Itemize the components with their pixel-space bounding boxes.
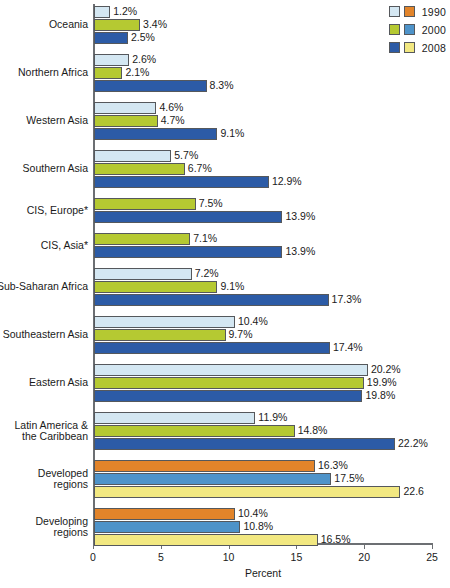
bar-row: 16.3% bbox=[94, 460, 450, 472]
bar-row: 13.9% bbox=[94, 211, 450, 223]
bar-row: 19.8% bbox=[94, 390, 450, 402]
bar bbox=[94, 176, 269, 188]
x-axis-title: Percent bbox=[93, 567, 433, 579]
bar bbox=[94, 294, 329, 306]
x-tick-label: 15 bbox=[291, 551, 303, 563]
bar-row: 10.4% bbox=[94, 316, 450, 328]
bar bbox=[94, 32, 128, 44]
bar-value-label: 7.2% bbox=[192, 267, 219, 280]
bar-group: Oceania1.2%3.4%2.5% bbox=[0, 6, 450, 44]
bar bbox=[94, 54, 129, 66]
bar-value-label: 10.8% bbox=[240, 520, 273, 533]
bar-value-label: 6.7% bbox=[185, 162, 212, 175]
bar-value-label: 13.9% bbox=[282, 210, 315, 223]
x-tick-label: 10 bbox=[223, 551, 235, 563]
bar-row: 6.7% bbox=[94, 163, 450, 175]
bar-value-label: 17.4% bbox=[330, 341, 363, 354]
bar bbox=[94, 128, 217, 140]
bar bbox=[94, 67, 122, 79]
bar bbox=[94, 211, 282, 223]
bar-row: 9.1% bbox=[94, 281, 450, 293]
x-tick-label: 25 bbox=[426, 551, 438, 563]
bar-row: 19.9% bbox=[94, 377, 450, 389]
bar-row: 16.5% bbox=[94, 534, 450, 546]
bar bbox=[94, 80, 207, 92]
bar bbox=[94, 534, 318, 546]
bar-row: 10.8% bbox=[94, 521, 450, 533]
plot-area: 0510152025 Oceania1.2%3.4%2.5%Northern A… bbox=[0, 0, 450, 545]
bar-row: 17.3% bbox=[94, 294, 450, 306]
bar bbox=[94, 364, 368, 376]
bar bbox=[94, 233, 190, 245]
bar bbox=[94, 329, 226, 341]
bar-value-label: 20.2% bbox=[368, 363, 401, 376]
bar-row: 4.7% bbox=[94, 115, 450, 127]
bar bbox=[94, 425, 295, 437]
bar-group: Eastern Asia20.2%19.9%19.8% bbox=[0, 364, 450, 402]
category-label: Latin America & the Caribbean bbox=[0, 420, 88, 443]
x-tick-label: 20 bbox=[358, 551, 370, 563]
bar bbox=[94, 473, 331, 485]
category-label: Northern Africa bbox=[0, 67, 88, 79]
bar-row: 4.6% bbox=[94, 102, 450, 114]
bar-value-label: 4.6% bbox=[156, 101, 183, 114]
bar bbox=[94, 412, 255, 424]
bar-row: 2.5% bbox=[94, 32, 450, 44]
bar bbox=[94, 460, 315, 472]
bar-value-label: 7.5% bbox=[196, 197, 223, 210]
bar-row: 17.5% bbox=[94, 473, 450, 485]
bar-group: Southern Asia5.7%6.7%12.9% bbox=[0, 150, 450, 188]
category-label: Developing regions bbox=[0, 516, 88, 539]
bar-value-label: 1.2% bbox=[110, 5, 137, 18]
bar-group: Northern Africa2.6%2.1%8.3% bbox=[0, 54, 450, 92]
bar-value-label: 16.5% bbox=[318, 533, 351, 546]
x-tick-label: 0 bbox=[90, 551, 96, 563]
bar bbox=[94, 316, 235, 328]
bar-row: 3.4% bbox=[94, 19, 450, 31]
bar-value-label: 22.2% bbox=[395, 437, 428, 450]
category-label: CIS, Asia* bbox=[0, 240, 88, 252]
bar-row: 1.2% bbox=[94, 6, 450, 18]
bar-row: 2.1% bbox=[94, 67, 450, 79]
bar bbox=[94, 115, 158, 127]
bar-value-label: 19.9% bbox=[364, 376, 397, 389]
bar-group: Developed regions16.3%17.5%22.6 bbox=[0, 460, 450, 498]
bar-row: 7.5% bbox=[94, 198, 450, 210]
category-label: CIS, Europe* bbox=[0, 205, 88, 217]
bar-value-label: 17.3% bbox=[329, 293, 362, 306]
bar-row: 7.2% bbox=[94, 268, 450, 280]
bar-row: 20.2% bbox=[94, 364, 450, 376]
bar-value-label: 12.9% bbox=[269, 175, 302, 188]
bar-group: Developing regions10.4%10.8%16.5% bbox=[0, 508, 450, 546]
bar-value-label: 3.4% bbox=[140, 18, 167, 31]
bar-row: 12.9% bbox=[94, 176, 450, 188]
category-label: Oceania bbox=[0, 19, 88, 31]
bar-value-label: 4.7% bbox=[158, 114, 185, 127]
bar-group: Latin America & the Caribbean11.9%14.8%2… bbox=[0, 412, 450, 450]
bar-value-label: 10.4% bbox=[235, 507, 268, 520]
bar-value-label: 2.6% bbox=[129, 53, 156, 66]
bar-group: Western Asia4.6%4.7%9.1% bbox=[0, 102, 450, 140]
bar bbox=[94, 102, 156, 114]
category-label: Sub-Saharan Africa bbox=[0, 281, 88, 293]
bar-row: 9.1% bbox=[94, 128, 450, 140]
bar-value-label: 10.4% bbox=[235, 315, 268, 328]
bar bbox=[94, 150, 171, 162]
category-label: Developed regions bbox=[0, 468, 88, 491]
bar bbox=[94, 486, 400, 498]
bar-row: 22.6 bbox=[94, 486, 450, 498]
bar-group: Sub-Saharan Africa7.2%9.1%17.3% bbox=[0, 268, 450, 306]
bar-value-label: 8.3% bbox=[207, 79, 234, 92]
bar bbox=[94, 521, 240, 533]
bar bbox=[94, 377, 364, 389]
bar-value-label: 11.9% bbox=[255, 411, 287, 424]
bar-value-label: 22.6 bbox=[400, 485, 423, 498]
bar bbox=[94, 281, 217, 293]
bar bbox=[94, 508, 235, 520]
bar bbox=[94, 19, 140, 31]
bar-row: 8.3% bbox=[94, 80, 450, 92]
bar-row: 7.1% bbox=[94, 233, 450, 245]
bar bbox=[94, 246, 282, 258]
bar-value-label: 19.8% bbox=[362, 389, 395, 402]
bar-value-label: 9.1% bbox=[217, 280, 244, 293]
